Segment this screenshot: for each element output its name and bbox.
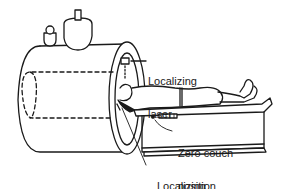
bottom-laser-label: Localizing laser: [157, 159, 206, 189]
gantry-top-tanks: [44, 10, 92, 50]
top-laser-label: Localizing laser: [148, 54, 197, 131]
bore-hidden-lines: [22, 72, 113, 118]
